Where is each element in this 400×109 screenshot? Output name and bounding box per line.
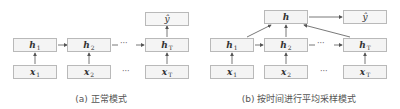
hidden-h1-box-a: h1 bbox=[13, 38, 57, 52]
hidden-h2-box-b: h2 bbox=[264, 38, 308, 52]
output-y-hat-box-b: ŷ bbox=[343, 10, 387, 24]
input-label: x bbox=[360, 67, 365, 77]
hidden-h1-box-b: h1 bbox=[210, 38, 254, 52]
ellipsis-input-b: ··· bbox=[320, 67, 328, 76]
hidden-subscript: T bbox=[367, 44, 371, 51]
input-xT-box-a: xT bbox=[145, 65, 189, 79]
ellipsis-hidden-a: ··· bbox=[120, 39, 128, 48]
hidden-hT-box-b: hT bbox=[343, 38, 387, 52]
input-label: x bbox=[30, 67, 35, 77]
ellipsis-input-a: ··· bbox=[122, 67, 130, 76]
hidden-subscript: 1 bbox=[234, 44, 238, 51]
hidden-subscript: T bbox=[169, 44, 173, 51]
pooled-label: h bbox=[283, 12, 290, 22]
input-label: x bbox=[162, 67, 167, 77]
input-label: x bbox=[281, 67, 286, 77]
hidden-label: h bbox=[29, 40, 36, 50]
output-label: ŷ bbox=[362, 12, 367, 22]
ellipsis-hidden-b: ··· bbox=[317, 39, 325, 48]
caption-b: (b) 按时间进行平均采样模式 bbox=[242, 92, 357, 105]
diagram-canvas: ŷ h1 h2 ··· hT x1 x2 ··· xT (a) 正常模式 h ŷ… bbox=[0, 0, 400, 109]
hidden-subscript: 1 bbox=[37, 44, 41, 51]
input-x1-box-a: x1 bbox=[13, 65, 57, 79]
input-xT-box-b: xT bbox=[343, 65, 387, 79]
output-label: ŷ bbox=[164, 14, 169, 24]
input-subscript: 2 bbox=[90, 71, 94, 78]
hidden-label: h bbox=[280, 40, 287, 50]
input-x2-box-a: x2 bbox=[67, 65, 111, 79]
hidden-label: h bbox=[226, 40, 233, 50]
output-y-hat-box-a: ŷ bbox=[145, 12, 189, 26]
input-subscript: 1 bbox=[233, 71, 237, 78]
input-subscript: T bbox=[168, 71, 172, 78]
pooled-h-box-b: h bbox=[264, 10, 308, 24]
input-subscript: 1 bbox=[36, 71, 40, 78]
hidden-label: h bbox=[83, 40, 90, 50]
input-label: x bbox=[227, 67, 232, 77]
caption-a: (a) 正常模式 bbox=[75, 92, 126, 105]
input-x2-box-b: x2 bbox=[264, 65, 308, 79]
input-subscript: 2 bbox=[287, 71, 291, 78]
input-subscript: T bbox=[366, 71, 370, 78]
hidden-subscript: 2 bbox=[91, 44, 95, 51]
input-x1-box-b: x1 bbox=[210, 65, 254, 79]
hidden-hT-box-a: hT bbox=[145, 38, 189, 52]
input-label: x bbox=[84, 67, 89, 77]
hidden-h2-box-a: h2 bbox=[67, 38, 111, 52]
hidden-label: h bbox=[161, 40, 168, 50]
hidden-label: h bbox=[359, 40, 366, 50]
hidden-subscript: 2 bbox=[288, 44, 292, 51]
